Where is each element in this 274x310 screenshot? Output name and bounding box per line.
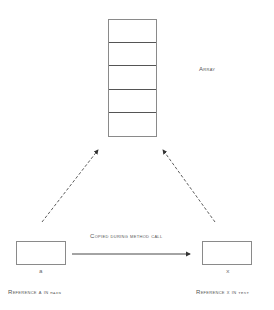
array-cell [109,90,156,113]
var-x-label: x [226,268,230,275]
array-box [108,19,157,137]
caption-text: Reference a in [8,289,50,295]
copy-arrow-label: Copied during method call [90,233,162,239]
caption-text: Reference x in [196,289,238,295]
var-a-label: a [39,268,43,275]
reference-x-caption: Reference x in test [196,289,249,296]
reference-a-caption: Reference a in main [8,289,61,296]
reference-x-box [202,241,252,265]
array-cell [109,113,156,136]
dashed-arrow-right [163,150,215,222]
array-cell [109,43,156,66]
reference-a-box [16,241,66,265]
array-label: Array [199,66,215,72]
caption-code: main [50,289,61,296]
array-cell [109,66,156,89]
dashed-arrow-left [42,150,98,222]
caption-code: test [238,289,249,296]
array-cell [109,20,156,43]
